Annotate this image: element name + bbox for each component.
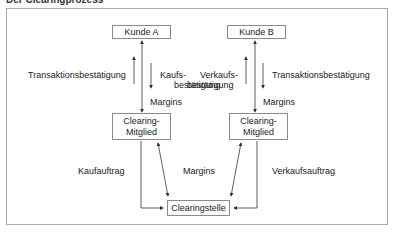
- verkaufsauftrag-arrow: [234, 141, 257, 208]
- node-kunde-b: Kunde B: [227, 25, 286, 39]
- node-label-line2: Mitglied: [126, 127, 157, 138]
- node-label-line2: Mitglied: [243, 127, 274, 138]
- node-clearing-mitglied-right: Clearing- Mitglied: [229, 113, 288, 140]
- margins-diagonal-left: [158, 143, 168, 196]
- label-kaufauftrag: Kaufauftrag: [78, 166, 125, 177]
- node-label-line1: Clearing-: [240, 116, 277, 127]
- label-margins-center: Margins: [183, 166, 215, 177]
- node-clearing-mitglied-left: Clearing- Mitglied: [112, 113, 171, 140]
- connector-lines: [0, 0, 395, 233]
- label-bestaetigung-verkaufs: bestätigung: [187, 80, 234, 91]
- label-transaktionsbestaetigung-left: Transaktionsbestätigung: [28, 70, 126, 81]
- label-verkaufsauftrag: Verkaufsauftrag: [272, 166, 335, 177]
- node-kunde-a: Kunde A: [112, 25, 171, 39]
- node-clearingstelle: Clearingstelle: [167, 200, 230, 216]
- node-kunde-b-label: Kunde B: [239, 27, 274, 38]
- node-label-line1: Clearing-: [123, 116, 160, 127]
- label-transaktionsbestaetigung-right: Transaktionsbestätigung: [272, 70, 370, 81]
- node-kunde-a-label: Kunde A: [124, 27, 158, 38]
- label-margins-left: Margins: [150, 97, 182, 108]
- margins-diagonal-right: [231, 143, 241, 196]
- label-margins-right: Margins: [263, 97, 295, 108]
- node-clearingstelle-label: Clearingstelle: [171, 203, 226, 214]
